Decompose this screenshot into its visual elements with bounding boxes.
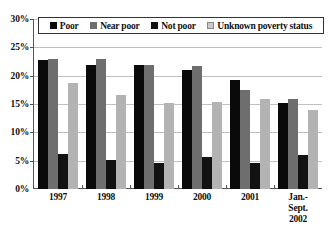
bar xyxy=(202,157,212,189)
legend-swatch-icon xyxy=(207,22,214,29)
x-axis-tick-label-line: 2000 xyxy=(178,192,226,203)
bar xyxy=(58,154,68,189)
x-axis-tick-label: 1999 xyxy=(130,192,178,225)
y-axis: 0%5%10%15%20%25%30% xyxy=(0,0,33,189)
x-axis-tick-mark xyxy=(178,185,179,189)
x-axis-labels: 19971998199920002001Jan.-Sept.2002 xyxy=(34,192,322,225)
legend-label: Poor xyxy=(60,21,79,31)
bar xyxy=(240,90,250,189)
bar xyxy=(106,160,116,189)
x-axis-tick-label-line: 2002 xyxy=(274,214,322,225)
bar xyxy=(68,83,78,189)
legend-item[interactable]: Unknown poverty status xyxy=(207,21,312,31)
x-axis-tick-label-line: Jan.- xyxy=(274,192,322,203)
x-axis-tick-label-line: Sept. xyxy=(274,203,322,214)
bar xyxy=(48,59,58,189)
bar xyxy=(278,103,288,189)
y-axis-tick-label: 25% xyxy=(11,42,29,52)
bar-group xyxy=(130,19,178,189)
bar-group xyxy=(178,19,226,189)
x-axis-tick-label: 2000 xyxy=(178,192,226,225)
legend-label: Near poor xyxy=(100,21,139,31)
x-axis-tick-label: 1998 xyxy=(82,192,130,225)
bar-group xyxy=(226,19,274,189)
bar xyxy=(38,60,48,189)
bar-group xyxy=(34,19,82,189)
bar xyxy=(182,70,192,189)
bar xyxy=(260,99,270,189)
x-axis-tick-mark xyxy=(226,185,227,189)
legend-label: Unknown poverty status xyxy=(217,21,312,31)
y-axis-tick-label: 10% xyxy=(11,127,29,137)
bar xyxy=(250,163,260,189)
bar xyxy=(154,163,164,189)
bar xyxy=(298,155,308,189)
bar xyxy=(96,59,106,189)
bar xyxy=(116,95,126,189)
x-axis-tick-mark xyxy=(274,185,275,189)
bar xyxy=(192,66,202,189)
legend-label: Not poor xyxy=(161,21,196,31)
legend-item[interactable]: Not poor xyxy=(151,21,196,31)
x-axis-tick-label-line: 1997 xyxy=(34,192,82,203)
legend-item[interactable]: Near poor xyxy=(90,21,139,31)
y-axis-tick-label: 0% xyxy=(15,184,29,194)
y-axis-tick-label: 20% xyxy=(11,71,29,81)
legend-swatch-icon xyxy=(90,22,97,29)
bar xyxy=(134,65,144,189)
x-axis-tick-label-line: 1999 xyxy=(130,192,178,203)
x-axis-tick-mark xyxy=(130,185,131,189)
legend-swatch-icon xyxy=(151,22,158,29)
x-axis-tick-label: Jan.-Sept.2002 xyxy=(274,192,322,225)
y-axis-tick-label: 5% xyxy=(15,156,29,166)
y-axis-tick-label: 30% xyxy=(11,14,29,24)
bar xyxy=(212,102,222,189)
x-axis-tick-label: 1997 xyxy=(34,192,82,225)
bar xyxy=(86,65,96,189)
legend-swatch-icon xyxy=(50,22,57,29)
bar-chart: 0%5%10%15%20%25%30% 19971998199920002001… xyxy=(0,0,334,234)
bar-group xyxy=(82,19,130,189)
x-axis-tick-label-line: 1998 xyxy=(82,192,130,203)
chart-legend: PoorNear poorNot poorUnknown poverty sta… xyxy=(38,17,324,34)
bar xyxy=(308,110,318,189)
bar xyxy=(164,103,174,189)
bar xyxy=(144,65,154,189)
x-axis-tick-label: 2001 xyxy=(226,192,274,225)
bar xyxy=(230,80,240,189)
bar xyxy=(288,99,298,189)
x-axis-tick-label-line: 2001 xyxy=(226,192,274,203)
legend-item[interactable]: Poor xyxy=(50,21,79,31)
bar-groups xyxy=(34,19,322,189)
y-axis-tick-label: 15% xyxy=(11,99,29,109)
x-axis-tick-mark xyxy=(82,185,83,189)
bar-group xyxy=(274,19,322,189)
